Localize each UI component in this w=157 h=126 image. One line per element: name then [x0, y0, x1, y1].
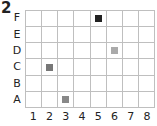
grid-cell: [26, 92, 42, 108]
grid-cell: [91, 27, 107, 43]
grid-cell: [26, 27, 42, 43]
grid-cell: [139, 76, 155, 92]
grid-cell: [42, 92, 58, 108]
grid-cell: [107, 59, 123, 75]
grid-cell: [123, 43, 139, 59]
grid-cell: [123, 11, 139, 27]
grid-cell: [139, 11, 155, 27]
x-axis-label-3: 3: [58, 110, 74, 123]
point-A3: [62, 96, 69, 103]
grid-cell: [139, 92, 155, 108]
grid-cell: [139, 59, 155, 75]
grid-cell: [58, 27, 74, 43]
x-axis-label-6: 6: [106, 110, 122, 123]
grid-cell: [107, 76, 123, 92]
y-axis-label-F: F: [12, 11, 22, 24]
y-axis-label-B: B: [12, 77, 22, 90]
y-axis-label-A: A: [12, 93, 22, 106]
grid-cell: [58, 11, 74, 27]
grid-cell: [74, 76, 90, 92]
y-axis-label-C: C: [12, 60, 22, 73]
x-axis-label-5: 5: [90, 110, 106, 123]
grid-cell: [74, 11, 90, 27]
grid-cell: [74, 59, 90, 75]
grid-cell: [91, 43, 107, 59]
grid-cell: [74, 43, 90, 59]
grid-cell: [74, 92, 90, 108]
problem-number: 2: [1, 0, 11, 17]
grid-cell: [26, 59, 42, 75]
grid-cell: [42, 76, 58, 92]
y-axis-label-E: E: [12, 28, 22, 41]
point-C2: [46, 64, 53, 71]
grid-cell: [139, 43, 155, 59]
grid-cell: [123, 59, 139, 75]
grid-cell: [58, 59, 74, 75]
grid-cell: [123, 92, 139, 108]
point-D6: [111, 47, 118, 54]
grid-cell: [58, 43, 74, 59]
point-F5: [95, 15, 102, 22]
coordinate-grid: [25, 10, 155, 108]
grid-cell: [26, 11, 42, 27]
grid-cell: [91, 76, 107, 92]
x-axis-label-2: 2: [41, 110, 57, 123]
grid-cell: [107, 11, 123, 27]
grid-cell: [107, 92, 123, 108]
y-axis-label-D: D: [12, 44, 22, 57]
x-axis-label-4: 4: [74, 110, 90, 123]
grid-cell: [107, 27, 123, 43]
grid-cell: [58, 76, 74, 92]
grid-cell: [91, 92, 107, 108]
grid-cell: [91, 59, 107, 75]
grid-cell: [123, 76, 139, 92]
grid-cell: [123, 27, 139, 43]
grid-cell: [42, 43, 58, 59]
x-axis-label-7: 7: [123, 110, 139, 123]
x-axis-label-8: 8: [139, 110, 155, 123]
grid-cell: [26, 76, 42, 92]
grid-cell: [74, 27, 90, 43]
grid-cell: [26, 43, 42, 59]
grid-cell: [42, 27, 58, 43]
grid-cell: [139, 27, 155, 43]
grid-cell: [42, 11, 58, 27]
x-axis-label-1: 1: [25, 110, 41, 123]
